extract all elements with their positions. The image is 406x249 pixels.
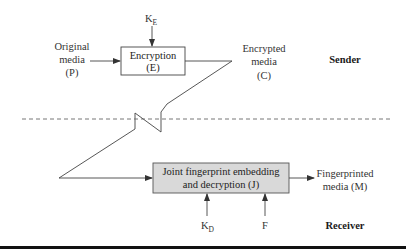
sender-section-label: Sender xyxy=(329,54,361,65)
fingerprint-label: F xyxy=(262,220,268,231)
fingerprinted-media-label-line2: media (M) xyxy=(323,181,368,193)
original-media-label-line1: Original xyxy=(55,41,90,52)
key-e-label: KE xyxy=(145,13,158,27)
encrypted-media-label-line2: media xyxy=(251,56,277,67)
receiver-section-label: Receiver xyxy=(325,220,364,231)
encryption-box-label-line2: (E) xyxy=(146,62,160,74)
joint-box-label-line1: Joint fingerprint embedding xyxy=(162,166,280,177)
transmission-channel-path xyxy=(59,61,232,178)
encryption-fingerprint-diagram: KE Original media (P) Encryption (E) Enc… xyxy=(0,0,406,249)
encrypted-media-label-line3: (C) xyxy=(257,70,272,82)
original-media-label-line2: media xyxy=(59,54,85,65)
encryption-box-label-line1: Encryption xyxy=(130,50,177,61)
original-media-label-line3: (P) xyxy=(66,67,79,79)
key-d-label: KD xyxy=(201,220,215,234)
fingerprinted-media-label-line1: Fingerprinted xyxy=(316,168,374,179)
joint-box-label-line2: and decryption (J) xyxy=(183,179,260,191)
encrypted-media-label-line1: Encrypted xyxy=(242,43,286,54)
